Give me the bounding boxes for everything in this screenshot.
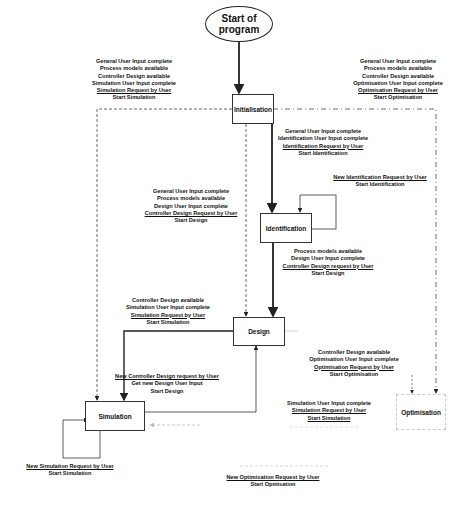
init-to-optimisation-conditions: General User Input completeProcess model… xyxy=(353,58,443,102)
initialisation-node: Initialisation xyxy=(232,94,274,124)
optimisation-node: Optimisation xyxy=(396,394,446,430)
simulation-to-design-conditions: New Controller Design request by UserGet… xyxy=(115,373,219,395)
design-label: Design xyxy=(248,328,270,335)
identification-label: Identification xyxy=(266,225,306,232)
design-to-optimisation-conditions: Controller Design availableOptimisation … xyxy=(309,349,399,378)
init-to-simulation-conditions: General User Input completeProcess model… xyxy=(92,58,176,102)
start-line1: Start of xyxy=(219,13,260,24)
init-to-design-conditions: General User Input completeProcess model… xyxy=(145,188,238,224)
start-line2: program xyxy=(219,24,260,35)
optimisation-loop-conditions: New Optimisation Request by UserStart Op… xyxy=(227,474,320,489)
identification-to-design-conditions: Process models availableDesign User Inpu… xyxy=(283,248,374,277)
simulation-label: Simulation xyxy=(98,413,131,420)
identification-loop-conditions: New Identification Request by UserStart … xyxy=(333,174,427,189)
simulation-loop-conditions: New Simulation Request by UserStart Simu… xyxy=(26,463,113,478)
optimisation-label: Optimisation xyxy=(401,409,441,416)
initialisation-label: Initialisation xyxy=(234,106,272,113)
simulation-node: Simulation xyxy=(85,401,145,431)
init-to-identification-conditions: General User Input completeIdentificatio… xyxy=(278,128,368,157)
start-of-program-node: Start ofprogram xyxy=(205,6,273,42)
identification-node: Identification xyxy=(260,213,312,243)
design-node: Design xyxy=(233,317,285,346)
optimisation-to-simulation-conditions: Simulation User Input completeSimulation… xyxy=(287,400,371,422)
design-to-simulation-conditions: Controller Design availableSimulation Us… xyxy=(126,297,210,326)
